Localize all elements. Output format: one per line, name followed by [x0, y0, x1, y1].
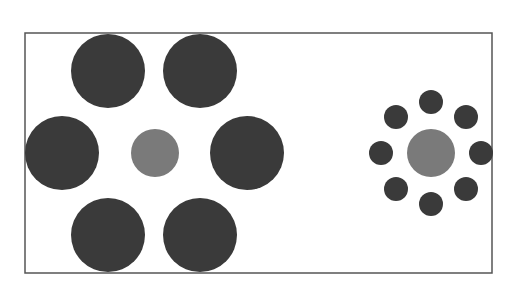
left-target-circle	[131, 129, 179, 177]
small-inducer-circle	[384, 105, 408, 129]
large-inducer-circle	[71, 34, 145, 108]
large-inducer-circle	[210, 116, 284, 190]
small-inducer-circle	[454, 177, 478, 201]
large-inducer-circle	[163, 198, 237, 272]
large-inducer-circle	[71, 198, 145, 272]
large-inducer-circle	[25, 116, 99, 190]
right-circle-group-small-inducers	[369, 90, 493, 216]
small-inducer-circle	[384, 177, 408, 201]
small-inducer-circle	[454, 105, 478, 129]
right-target-circle	[407, 129, 455, 177]
small-inducer-circle	[369, 141, 393, 165]
ebbinghaus-diagram	[0, 0, 512, 296]
large-inducer-circle	[163, 34, 237, 108]
left-circle-group-large-inducers	[25, 34, 284, 272]
small-inducer-circle	[419, 90, 443, 114]
small-inducer-circle	[419, 192, 443, 216]
small-inducer-circle	[469, 141, 493, 165]
